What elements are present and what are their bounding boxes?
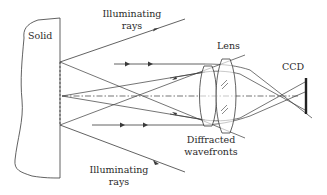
label-ccd: CCD — [282, 61, 304, 73]
label-illuminating-rays-top: Illuminating rays — [97, 8, 167, 32]
solid-body — [15, 18, 60, 178]
optical-setup-diagram: Solid Illuminating rays Lens CCD Diffrac… — [0, 0, 327, 195]
lens-element-1 — [200, 66, 217, 126]
arrow-icon — [125, 62, 130, 67]
label-lens: Lens — [217, 40, 240, 52]
lens-element-2 — [216, 59, 236, 133]
label-illuminating-rays-bottom: Illuminating rays — [84, 164, 154, 188]
label-solid: Solid — [28, 30, 52, 42]
arrow-icon — [143, 123, 148, 128]
focused-ray — [170, 82, 305, 121]
arrow-icon — [148, 62, 153, 67]
label-diffracted-wavefronts: Diffracted wavefronts — [176, 134, 246, 158]
focused-ray — [170, 71, 305, 110]
arrow-icon — [120, 123, 125, 128]
